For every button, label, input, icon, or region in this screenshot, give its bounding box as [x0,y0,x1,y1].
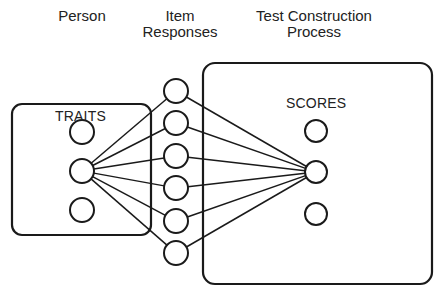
item-response-node-3 [164,144,188,168]
item-response-node-1 [164,79,188,103]
diagram-canvas [0,0,440,294]
score-node-1 [305,120,327,142]
traits-label: TRAITS [55,108,106,124]
item-response-node-4 [164,176,188,200]
item-response-node-2 [164,111,188,135]
edge-item-to-score-5 [187,176,305,217]
edge-trait-to-item-5 [93,177,166,216]
item-response-node-6 [164,241,188,265]
item-response-node-5 [164,209,188,233]
score-node-3 [305,203,327,225]
edge-item-to-score-2 [187,127,305,168]
score-node-2 [305,161,327,183]
edge-item-to-score-6 [186,178,306,247]
edges [91,97,306,247]
edge-trait-to-item-4 [94,173,164,186]
trait-node-2 [70,159,94,183]
trait-node-3 [70,198,94,222]
scores-label: SCORES [286,95,346,111]
edge-item-to-score-4 [188,173,305,186]
edge-item-to-score-3 [188,157,305,170]
